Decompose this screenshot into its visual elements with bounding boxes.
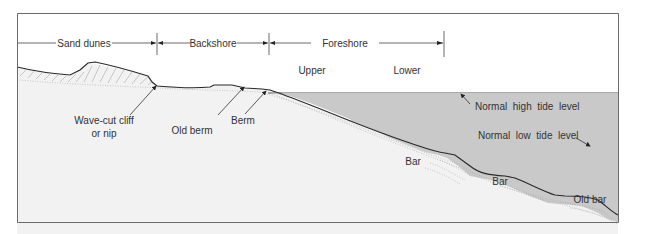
label-low-tide: Normal low tide level — [478, 130, 579, 141]
label-lower: Lower — [393, 65, 421, 76]
label-foreshore: Foreshore — [322, 38, 368, 49]
label-bar-2: Bar — [492, 176, 508, 187]
label-backshore: Backshore — [189, 38, 237, 49]
label-berm: Berm — [231, 115, 255, 126]
label-wave-cut-cliff: Wave-cut cliff — [74, 115, 134, 126]
label-upper: Upper — [298, 65, 326, 76]
label-old-berm: Old berm — [171, 125, 212, 136]
label-old-bar: Old bar — [574, 194, 607, 205]
beach-profile-diagram: Sand dunes Backshore Foreshore Upper Low… — [0, 0, 649, 234]
label-or-nip: or nip — [91, 128, 116, 139]
label-sand-dunes: Sand dunes — [57, 38, 110, 49]
label-high-tide: Normal high tide level — [475, 101, 580, 112]
label-bar-1: Bar — [405, 156, 421, 167]
